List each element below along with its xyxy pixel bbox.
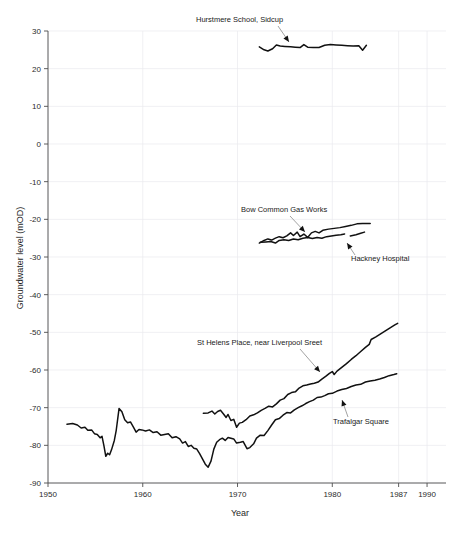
x-tick-label: 1960	[134, 490, 152, 499]
y-tick-label: -20	[29, 215, 41, 224]
series-polyline	[259, 45, 366, 51]
y-tick-label: 30	[32, 27, 41, 36]
y-tick-label: -90	[29, 479, 41, 488]
annotation-bow: Bow Common Gas Works	[241, 205, 327, 232]
x-tick-label: 1990	[418, 490, 436, 499]
y-tick-label: -30	[29, 253, 41, 262]
annotation-label-hurstmere: Hurstmere School, Sidcup	[196, 15, 283, 24]
annotation-sthelens: St Helens Place, near Liverpool Sreet	[197, 338, 323, 372]
y-tick-label: 0	[37, 140, 42, 149]
annotation-arrowhead-hackney	[347, 243, 352, 249]
annotation-hurstmere: Hurstmere School, Sidcup	[196, 15, 289, 42]
annotation-label-trafalgar: Trafalgar Square	[333, 417, 389, 426]
annotation-arrowhead-trafalgar	[342, 400, 347, 407]
annotation-label-hackney: Hackney Hospital	[351, 254, 410, 263]
chart-canvas: 3020100-10-20-30-40-50-60-70-80-90195019…	[0, 0, 470, 537]
x-tick-label: 1987	[390, 490, 408, 499]
data-series	[67, 45, 398, 468]
y-tick-label: -10	[29, 178, 41, 187]
annotation-trafalgar: Trafalgar Square	[333, 400, 389, 426]
y-tick-label: 10	[32, 102, 41, 111]
tick-labels: 3020100-10-20-30-40-50-60-70-80-90195019…	[29, 27, 436, 499]
annotation-label-sthelens: St Helens Place, near Liverpool Sreet	[197, 338, 323, 347]
x-axis-title: Year	[231, 508, 249, 518]
series-hurstmere-school-sidcup	[259, 45, 366, 51]
x-tick-label: 1980	[323, 490, 341, 499]
x-tick-label: 1970	[229, 490, 247, 499]
annotation-label-bow: Bow Common Gas Works	[241, 205, 327, 214]
series-annotations: Hurstmere School, SidcupBow Common Gas W…	[196, 15, 410, 426]
y-tick-label: -50	[29, 328, 41, 337]
groundwater-level-chart: 3020100-10-20-30-40-50-60-70-80-90195019…	[0, 0, 470, 537]
y-axis-title: Groundwater level (mOD)	[15, 207, 25, 310]
y-tick-label: 20	[32, 65, 41, 74]
y-tick-label: -40	[29, 291, 41, 300]
series-polyline	[259, 223, 370, 243]
annotation-arrowhead-hurstmere	[283, 36, 289, 42]
series-bow-common-gas-works	[259, 223, 370, 243]
series-polyline-segment	[350, 232, 364, 236]
x-tick-label: 1950	[39, 490, 57, 499]
y-tick-label: -70	[29, 404, 41, 413]
annotation-hackney: Hackney Hospital	[347, 243, 410, 263]
y-tick-label: -80	[29, 441, 41, 450]
y-tick-label: -60	[29, 366, 41, 375]
